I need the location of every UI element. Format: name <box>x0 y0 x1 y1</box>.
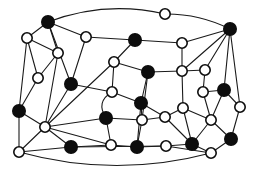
graph-node-white <box>177 66 187 76</box>
graph-node-black <box>224 23 236 35</box>
graph-node-black <box>186 138 198 150</box>
graph-edge <box>48 9 165 22</box>
graph-node-white <box>206 148 216 158</box>
graph-node-black <box>142 66 154 78</box>
graph-edge <box>71 37 86 84</box>
graph-node-black <box>100 112 112 124</box>
graph-node-white <box>177 38 187 48</box>
graph-node-white <box>22 33 32 43</box>
graph-node-white <box>33 73 43 83</box>
graph-node-white <box>200 65 210 75</box>
graph-figure <box>0 0 258 171</box>
graph-node-white <box>106 140 116 150</box>
graph-node-white <box>206 115 216 125</box>
graph-node-black <box>129 34 141 46</box>
graph-node-white <box>235 102 245 112</box>
graph-node-white <box>161 141 171 151</box>
graph-node-black <box>135 97 147 109</box>
graph-node-white <box>160 112 170 122</box>
graph-node-white <box>109 57 119 67</box>
graph-node-white <box>137 115 147 125</box>
graph-node-black <box>13 105 25 117</box>
graph-node-white <box>14 147 24 157</box>
graph-edge <box>165 14 230 29</box>
graph-node-white <box>40 122 50 132</box>
graph-edge <box>45 127 111 145</box>
graph-node-white <box>160 9 170 19</box>
edge-layer <box>19 9 240 166</box>
node-layer <box>13 9 245 158</box>
graph-node-white <box>107 87 117 97</box>
graph-node-black <box>42 16 54 28</box>
graph-edge <box>45 118 106 127</box>
graph-node-white <box>178 103 188 113</box>
graph-edge <box>19 147 71 152</box>
graph-node-black <box>218 84 230 96</box>
graph-node-black <box>65 141 77 153</box>
graph-edge <box>230 29 240 107</box>
graph-node-black <box>65 78 77 90</box>
graph-node-white <box>198 87 208 97</box>
graph-node-white <box>81 32 91 42</box>
graph-node-black <box>131 141 143 153</box>
graph-edge <box>19 152 211 166</box>
graph-edge <box>27 38 38 78</box>
graph-canvas <box>0 0 258 171</box>
graph-node-black <box>225 133 237 145</box>
graph-edge <box>135 40 182 43</box>
graph-edge <box>86 37 135 40</box>
graph-node-white <box>53 48 63 58</box>
